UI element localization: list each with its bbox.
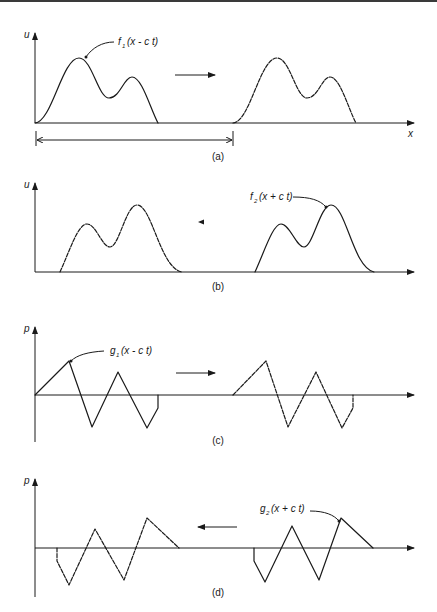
- caption-d: (d): [212, 587, 224, 598]
- wave-f1-translated: [233, 58, 356, 123]
- panel-b: u f 2 (x + c t) (b): [24, 179, 414, 292]
- svg-text:2: 2: [265, 510, 270, 516]
- caption-c: (c): [212, 435, 224, 446]
- svg-text:(x - c t): (x - c t): [121, 345, 152, 356]
- p-axis-label: p: [23, 475, 30, 486]
- wave-g2-initial: [254, 518, 373, 582]
- label-leader-f1: [86, 42, 114, 57]
- u-axis-label: u: [24, 179, 30, 190]
- svg-text:(x - c t): (x - c t): [127, 36, 158, 47]
- label-leader-g2: [310, 511, 339, 521]
- curve-label-f1: f 1 (x - c t): [118, 36, 158, 49]
- wave-propagation-diagram: u x f 1 (x - c t) (a) u f 2 (x + c t) (b…: [0, 0, 437, 612]
- label-leader-g1: [71, 351, 104, 361]
- label-leader-f2: [293, 197, 326, 207]
- caption-b: (b): [212, 281, 224, 292]
- travel-left-arrowhead: [198, 220, 204, 225]
- panel-a: u x f 1 (x - c t) (a): [24, 29, 414, 162]
- panel-c: p g 1 (x - c t) (c): [23, 323, 414, 446]
- p-axis-label: p: [23, 323, 30, 334]
- panel-d: p g 2 (x + c t) (d): [23, 475, 414, 598]
- curve-label-g2: g 2 (x + c t): [260, 503, 305, 516]
- svg-text:1: 1: [122, 43, 125, 49]
- curve-label-f2: f 2 (x + c t): [250, 191, 293, 204]
- svg-text:1: 1: [116, 352, 119, 358]
- u-axis-label: u: [24, 29, 30, 40]
- svg-text:2: 2: [253, 198, 258, 204]
- curve-label-g1: g 1 (x - c t): [110, 345, 152, 358]
- x-axis-label: x: [407, 128, 414, 139]
- wave-f1-initial: [35, 58, 158, 123]
- wave-f2-initial: [255, 205, 374, 272]
- svg-text:(x + c t): (x + c t): [271, 503, 305, 514]
- wave-f2-translated: [60, 205, 182, 272]
- wave-g2-translated: [57, 518, 179, 585]
- svg-text:(x + c t): (x + c t): [259, 191, 293, 202]
- caption-a: (a): [212, 151, 224, 162]
